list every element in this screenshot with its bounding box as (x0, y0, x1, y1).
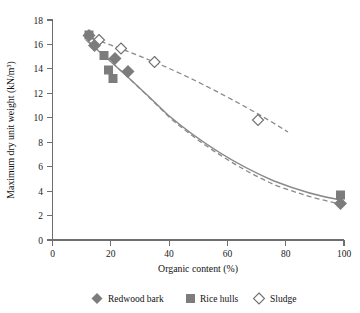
chart-svg: 18 16 14 12 10 8 6 4 2 0 0 20 40 60 80 (0, 0, 360, 313)
data-point-redwood-bark (109, 52, 122, 65)
y-tick-label: 12 (34, 89, 44, 99)
data-point-redwood-bark (122, 65, 135, 78)
x-tick-label: 60 (223, 249, 233, 259)
data-point-rice-hulls (100, 51, 109, 60)
x-axis-title: Organic content (%) (158, 263, 238, 275)
redwood-bark-fit-curve (86, 40, 341, 200)
data-point-sludge (149, 57, 160, 68)
legend-label-rice-hulls: Rice hulls (200, 294, 239, 304)
x-tick-label: 40 (164, 249, 174, 259)
y-tick-label: 8 (38, 138, 43, 148)
sludge-series-markers (94, 35, 264, 126)
y-tick-label: 2 (38, 211, 43, 221)
y-tick-label: 0 (38, 236, 43, 246)
data-point-sludge (116, 43, 127, 54)
x-tick-label: 100 (337, 249, 352, 259)
y-tick-label: 14 (34, 64, 44, 74)
y-tick-label: 6 (38, 162, 43, 172)
legend-marker-rice-hulls-icon (186, 294, 195, 303)
rice-hulls-fit-curve (88, 41, 341, 204)
legend-marker-redwood-bark-icon (92, 293, 103, 304)
x-tick-label: 0 (50, 249, 55, 259)
chart-legend: Redwood bark Rice hulls Sludge (92, 293, 297, 304)
y-axis-ticks (47, 20, 53, 240)
y-tick-label: 4 (38, 187, 43, 197)
rice-hulls-series-markers (85, 31, 346, 200)
data-point-sludge (253, 115, 264, 126)
chart-figure: 18 16 14 12 10 8 6 4 2 0 0 20 40 60 80 (0, 0, 360, 313)
y-tick-label: 18 (34, 16, 44, 26)
redwood-bark-series-markers (83, 29, 348, 210)
legend-label-sludge: Sludge (270, 294, 296, 304)
y-axis-tick-labels: 18 16 14 12 10 8 6 4 2 0 (34, 16, 44, 246)
data-point-rice-hulls (109, 74, 118, 83)
data-point-rice-hulls (104, 66, 113, 75)
x-tick-label: 80 (281, 249, 291, 259)
x-axis-ticks (53, 240, 345, 246)
y-axis-title: Maximum dry unit weight (kN/m³) (5, 61, 17, 198)
legend-marker-sludge-icon (254, 293, 265, 304)
legend-label-redwood-bark: Redwood bark (108, 294, 164, 304)
y-tick-label: 16 (34, 40, 44, 50)
y-tick-label: 10 (34, 113, 44, 123)
x-tick-label: 20 (106, 249, 116, 259)
x-axis-tick-labels: 0 20 40 60 80 100 (50, 249, 351, 259)
